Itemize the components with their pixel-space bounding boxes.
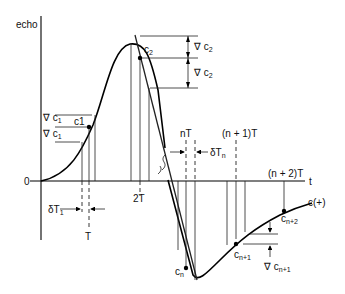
cn-sampling-lines (178, 140, 284, 280)
point-c1 (87, 125, 91, 129)
echo-curve-positive (41, 44, 165, 181)
echo-diagram: echo t 0 c1 ∇ c1 ∇ c1 δT1 T c2 ∇ c2 (0, 0, 345, 294)
point-cn (184, 266, 188, 270)
label-nT: nT (180, 128, 192, 139)
label-n1T: (n + 1)T (222, 128, 257, 139)
echo-curve-negative (168, 180, 312, 278)
label-grad-cn1: ∇ cn+1 (263, 261, 291, 273)
point-c2 (138, 56, 142, 60)
label-cn1: cn+1 (234, 249, 251, 261)
label-cn: cn (175, 266, 184, 278)
label-2T: 2T (133, 193, 145, 204)
label-c1: c1 (74, 116, 85, 127)
label-dT1: δT1 (48, 204, 64, 216)
label-dTn: δTn (210, 147, 226, 159)
label-T: T (85, 231, 91, 242)
label-grad-c2-a: ∇ c2 (193, 41, 213, 53)
label-n2T: (n + 2)T (268, 168, 303, 179)
label-grad-c1-a: ∇ c1 (42, 112, 62, 124)
label-cn2: cn+2 (281, 213, 298, 225)
point-cn1 (234, 242, 238, 246)
y-axis-label: echo (16, 19, 38, 30)
label-curve: c(+) (308, 197, 326, 208)
x-axis-label: t (309, 176, 312, 187)
label-grad-c1-b: ∇ c1 (42, 128, 62, 140)
origin-label: 0 (24, 176, 30, 187)
axis-break-icon (158, 154, 166, 174)
label-c2: c2 (144, 44, 153, 56)
label-grad-c2-b: ∇ c2 (193, 67, 213, 79)
